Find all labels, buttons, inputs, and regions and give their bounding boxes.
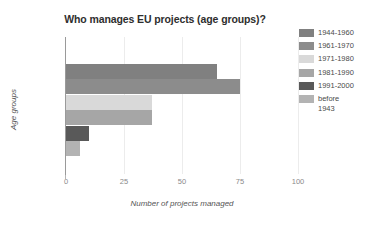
bar bbox=[66, 141, 80, 156]
chart-title: Who manages EU projects (age groups)? bbox=[0, 13, 330, 25]
legend-label: 1971-1980 bbox=[318, 54, 354, 64]
legend-item[interactable]: 1981-1990 bbox=[299, 68, 372, 78]
x-axis-tick-label: 75 bbox=[236, 177, 244, 186]
bar-chart: Who manages EU projects (age groups)? 02… bbox=[0, 0, 372, 226]
bar bbox=[66, 64, 217, 79]
legend-item[interactable]: 1991-2000 bbox=[299, 81, 372, 91]
bar bbox=[66, 79, 240, 94]
x-axis-tick-label: 100 bbox=[292, 177, 305, 186]
x-axis-tick-labels: 0255075100 bbox=[66, 177, 298, 189]
plot-area bbox=[66, 37, 298, 174]
legend-label: 1991-2000 bbox=[318, 81, 354, 91]
legend-item[interactable]: 1961-1970 bbox=[299, 41, 372, 51]
x-axis-title: Number of projects managed bbox=[66, 199, 298, 208]
legend-label: 1944-1960 bbox=[318, 28, 354, 38]
legend-item[interactable]: before 1943 bbox=[299, 94, 372, 114]
x-axis-tick-label: 0 bbox=[64, 177, 68, 186]
bar bbox=[66, 110, 152, 125]
legend-swatch bbox=[299, 42, 314, 50]
legend-swatch bbox=[299, 95, 314, 103]
y-axis-title: Age groups bbox=[9, 80, 18, 140]
legend-label: before 1943 bbox=[318, 94, 339, 114]
bar bbox=[66, 95, 152, 110]
legend-item[interactable]: 1944-1960 bbox=[299, 28, 372, 38]
legend: 1944-19601961-19701971-19801981-19901991… bbox=[299, 28, 372, 117]
legend-swatch bbox=[299, 55, 314, 63]
legend-item[interactable]: 1971-1980 bbox=[299, 54, 372, 64]
legend-swatch bbox=[299, 29, 314, 37]
legend-label: 1981-1990 bbox=[318, 68, 354, 78]
bar bbox=[66, 126, 89, 141]
bars-layer bbox=[66, 64, 298, 157]
x-axis-tick-label: 50 bbox=[178, 177, 186, 186]
x-axis-tick-label: 25 bbox=[120, 177, 128, 186]
legend-label: 1961-1970 bbox=[318, 41, 354, 51]
legend-swatch bbox=[299, 69, 314, 77]
legend-swatch bbox=[299, 82, 314, 90]
